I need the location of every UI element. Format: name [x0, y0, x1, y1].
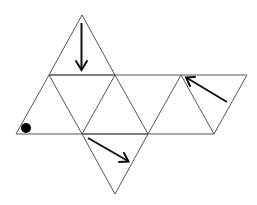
strip-edge-4: [115, 75, 148, 134]
arrow-down-right-icon: [88, 138, 129, 162]
strip-edge-1: [16, 75, 49, 134]
octahedron-net-diagram: [0, 0, 257, 205]
dot-marker-icon: [21, 123, 31, 133]
triangle-bottom-flap: [82, 134, 148, 194]
arrow-down-icon: [76, 23, 87, 70]
strip-edge-5: [148, 75, 181, 134]
strip-edge-2: [49, 75, 82, 134]
strip-edge-3: [82, 75, 115, 134]
arrow-up-left-icon: [186, 77, 227, 102]
strip-edge-7: [214, 75, 247, 134]
